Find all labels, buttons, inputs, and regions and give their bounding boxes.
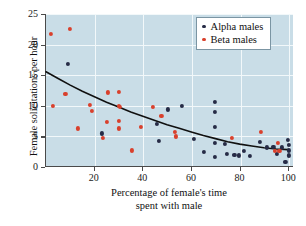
x-tick-mark <box>191 167 192 171</box>
data-point-alpha <box>165 107 169 111</box>
data-point-alpha <box>213 99 217 103</box>
x-tick-mark <box>94 167 95 171</box>
y-tick-label: 25 <box>16 9 38 19</box>
data-point-beta <box>277 149 281 153</box>
data-point-alpha <box>248 154 252 158</box>
legend-label-alpha: Alpha males <box>211 21 264 32</box>
data-point-alpha <box>100 131 104 135</box>
data-point-alpha <box>283 160 287 164</box>
y-tick-label: 5 <box>16 131 38 141</box>
x-tick-mark <box>240 167 241 171</box>
legend-item-alpha-males: Alpha males <box>202 20 263 33</box>
data-point-beta <box>117 119 121 123</box>
y-tick-mark <box>41 106 45 107</box>
data-point-beta <box>106 90 110 94</box>
data-point-alpha <box>225 152 229 156</box>
data-point-alpha <box>237 153 241 157</box>
x-tick-mark <box>288 167 289 171</box>
x-axis-title-line-1: Percentage of female's time <box>45 186 293 199</box>
y-tick-mark <box>41 75 45 76</box>
data-point-beta <box>117 126 121 130</box>
y-tick-label: 10 <box>16 101 38 111</box>
data-point-alpha <box>258 140 262 144</box>
y-tick-mark <box>41 167 45 168</box>
data-point-alpha <box>265 145 269 149</box>
data-point-beta <box>49 31 53 35</box>
legend: Alpha males Beta males <box>196 17 271 50</box>
data-point-beta <box>88 102 92 106</box>
y-tick-mark <box>41 45 45 46</box>
x-axis-title: Percentage of female's time spent with m… <box>45 186 293 212</box>
data-point-beta <box>51 104 55 108</box>
data-point-alpha <box>287 148 291 152</box>
x-tick-label: 60 <box>176 172 206 183</box>
y-tick-mark <box>41 136 45 137</box>
data-point-alpha <box>157 139 161 143</box>
y-tick-label: 0 <box>16 162 38 172</box>
x-tick-label: 100 <box>273 172 303 183</box>
x-tick-mark <box>142 167 143 171</box>
data-point-alpha <box>213 140 217 144</box>
x-tick-label: 20 <box>79 172 109 183</box>
data-point-beta <box>174 134 178 138</box>
legend-marker-beta-icon <box>202 38 206 42</box>
data-point-beta <box>105 120 109 124</box>
data-point-alpha <box>213 110 217 114</box>
data-point-alpha <box>180 104 184 108</box>
data-point-beta <box>118 105 122 109</box>
data-point-beta <box>130 148 134 152</box>
data-point-beta <box>117 90 121 94</box>
data-point-alpha <box>287 143 291 147</box>
data-point-beta <box>259 130 263 134</box>
data-point-beta <box>139 125 143 129</box>
legend-marker-alpha-icon <box>202 25 206 29</box>
data-point-alpha <box>66 62 70 66</box>
data-point-beta <box>90 109 94 113</box>
data-point-alpha <box>213 125 217 129</box>
y-tick-mark <box>41 14 45 15</box>
legend-label-beta: Beta males <box>211 34 257 45</box>
data-point-beta <box>276 141 280 145</box>
legend-item-beta-males: Beta males <box>202 33 263 46</box>
data-point-alpha <box>155 122 159 126</box>
data-point-alpha <box>242 149 246 153</box>
data-point-beta <box>101 136 105 140</box>
scatter-plot-figure: Female solicitations per hour 0510152025… <box>0 0 306 226</box>
data-point-beta <box>151 105 155 109</box>
data-point-alpha <box>213 155 217 159</box>
data-point-alpha <box>192 137 196 141</box>
data-point-alpha <box>232 153 236 157</box>
data-point-alpha <box>286 138 290 142</box>
data-point-alpha <box>287 153 291 157</box>
y-tick-label: 15 <box>16 70 38 80</box>
data-point-beta <box>68 27 72 31</box>
data-point-beta <box>159 114 163 118</box>
y-tick-label: 20 <box>16 40 38 50</box>
data-point-alpha <box>202 150 206 154</box>
x-tick-label: 80 <box>225 172 255 183</box>
data-point-alpha <box>223 142 227 146</box>
data-point-beta <box>76 126 80 130</box>
data-point-beta <box>230 136 234 140</box>
x-axis-title-line-2: spent with male <box>45 199 293 212</box>
x-tick-label: 40 <box>127 172 157 183</box>
data-point-beta <box>63 91 67 95</box>
